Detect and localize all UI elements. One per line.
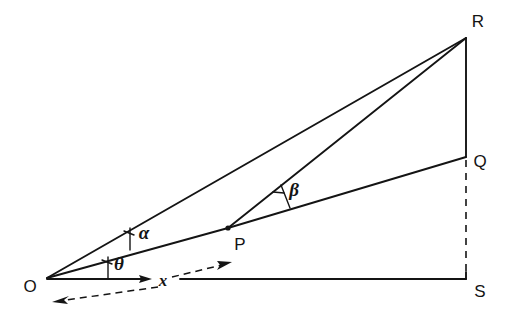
segment-O-Q <box>47 157 466 278</box>
x-left-arrowhead <box>52 296 69 304</box>
vertex-label-P: P <box>234 235 245 254</box>
angle-label-beta: β <box>288 179 299 200</box>
segment-P-R <box>228 38 466 228</box>
vertex-labels: O P R Q S <box>23 12 486 301</box>
geometry-diagram: O P R Q S θ α β x <box>0 0 510 328</box>
dashed-lines <box>52 160 466 304</box>
vertex-label-R: R <box>472 12 484 31</box>
solid-lines <box>47 38 466 283</box>
angle-label-theta: θ <box>114 253 124 274</box>
vertex-label-S: S <box>474 282 485 301</box>
diagram-canvas: O P R Q S θ α β x <box>0 0 510 328</box>
angle-marks <box>102 185 290 278</box>
axis-label-x: x <box>158 271 168 290</box>
vertex-label-Q: Q <box>473 152 486 171</box>
beta-angle-tick <box>273 192 284 193</box>
vertex-dot-P <box>225 225 230 230</box>
x-direction-arrow-right <box>172 265 222 277</box>
vertex-label-O: O <box>23 277 36 296</box>
segment-O-R <box>47 38 466 278</box>
x-direction-arrow-left <box>66 287 158 300</box>
angle-label-alpha: α <box>139 222 150 243</box>
